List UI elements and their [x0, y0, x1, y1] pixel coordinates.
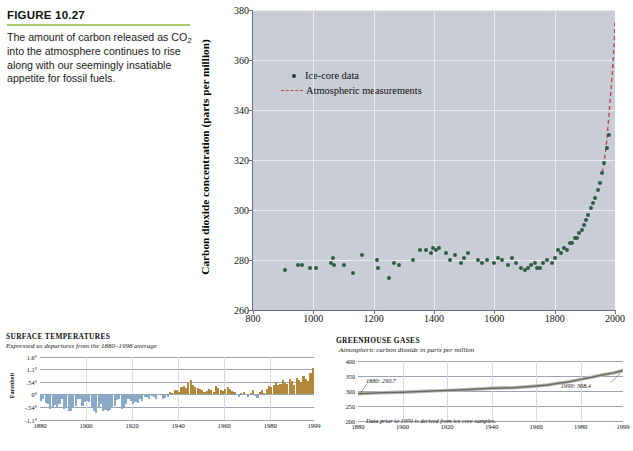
ice-core-data-point	[605, 146, 609, 150]
main-x-tickmark	[494, 310, 495, 314]
main-y-tickmark	[249, 110, 253, 111]
temp-y-tick: 1.1°	[27, 365, 37, 372]
ice-core-data-point	[448, 258, 452, 262]
legend-dot-icon	[292, 74, 296, 78]
ghg-x-tick: 1999	[616, 423, 629, 430]
ice-core-data-point	[575, 236, 579, 240]
temperature-bar	[256, 394, 258, 398]
ice-core-data-point	[418, 248, 422, 252]
ice-core-data-point	[582, 223, 586, 227]
main-x-tickmark	[615, 310, 616, 314]
ice-core-data-point	[591, 201, 595, 205]
ice-core-data-point	[392, 261, 396, 265]
ice-core-data-point	[506, 263, 510, 267]
ice-core-data-point	[553, 256, 557, 260]
temp-x-tick: 1980	[264, 422, 277, 429]
main-x-tick: 1200	[364, 313, 384, 324]
ice-core-data-point	[437, 246, 441, 250]
main-x-tickmark	[555, 310, 556, 314]
ice-core-data-point	[480, 261, 484, 265]
ghg-y-tick: 400	[346, 358, 355, 365]
ice-core-data-point	[300, 263, 304, 267]
temp-y-tick: 1.6°	[27, 354, 37, 361]
main-x-tick: 800	[246, 313, 261, 324]
ice-core-data-point	[593, 196, 597, 200]
temp-x-tick: 1940	[172, 422, 185, 429]
main-x-tickmark	[253, 310, 254, 314]
temp-y-tick: 0°	[31, 391, 37, 398]
main-chart-legend: Ice-core data Atmospheric measurements	[281, 68, 422, 98]
ice-core-data-point	[466, 251, 470, 255]
temperature-bar	[247, 394, 249, 397]
main-x-tick: 1000	[303, 313, 323, 324]
surface-temperatures-plot-area: 1.6°1.1°.54°0°-.54°-1.1°1880190019201940…	[40, 357, 314, 421]
main-co2-chart: Carbon dioxide concentration (parts per …	[200, 4, 628, 326]
ghg-co2-line	[358, 361, 623, 421]
greenhouse-gases-panel: GREENHOUSE GASES Atmospheric carbon diox…	[336, 336, 630, 448]
ghg-x-tick: 1960	[530, 423, 543, 430]
main-chart-plot-area: Ice-core data Atmospheric measurements 2…	[252, 10, 615, 311]
ice-core-data-point	[538, 266, 542, 270]
ice-core-data-point	[453, 253, 457, 257]
main-x-tick: 1800	[545, 313, 565, 324]
ice-core-data-point	[533, 261, 537, 265]
ice-core-data-point	[308, 266, 312, 270]
temperature-bar	[157, 394, 159, 395]
ghg-y-tick: 300	[346, 388, 355, 395]
farenheit-label: Farenheit	[8, 372, 15, 398]
main-y-tick: 340	[234, 105, 249, 116]
legend-label-atmospheric: Atmospheric measurements	[306, 85, 422, 96]
ice-core-data-point	[429, 251, 433, 255]
main-y-tickmark	[249, 60, 253, 61]
ice-core-data-point	[476, 258, 480, 262]
ice-core-data-point	[397, 263, 401, 267]
ice-core-data-point	[387, 276, 391, 280]
ice-core-data-point	[351, 271, 355, 275]
temp-x-tick: 1960	[218, 422, 231, 429]
ice-core-data-point	[424, 248, 428, 252]
main-y-tick: 360	[234, 55, 249, 66]
ice-core-data-point	[444, 251, 448, 255]
ice-core-data-point	[375, 258, 379, 262]
ice-core-data-point	[602, 161, 606, 165]
main-y-tickmark	[249, 210, 253, 211]
figure-rule	[7, 24, 190, 26]
surface-temperatures-panel: SURFACE TEMPERATURES Expressed as depart…	[6, 332, 316, 447]
main-y-tick: 280	[234, 255, 249, 266]
ice-core-data-point	[600, 171, 604, 175]
ice-core-data-point	[596, 188, 600, 192]
surface-temperatures-subtitle: Expressed as departures from the 1880–19…	[6, 342, 316, 350]
ghg-x-tick: 1880	[351, 423, 364, 430]
ice-core-data-point	[607, 133, 611, 137]
main-y-tick: 320	[234, 155, 249, 166]
ghg-x-tick: 1900	[396, 423, 409, 430]
temp-x-tick: 1920	[126, 422, 139, 429]
ghg-y-tick: 250	[346, 403, 355, 410]
surface-temperatures-y-axis-label: Farenheit	[6, 360, 17, 410]
ghg-x-tick: 1940	[485, 423, 498, 430]
ice-core-data-point	[514, 261, 518, 265]
caption-part-two: into the atmosphere continues to rise al…	[7, 45, 181, 84]
temperature-bar	[238, 394, 240, 396]
ghg-annotation-1880: 1880: 290.7	[366, 377, 396, 384]
main-y-tickmark	[249, 10, 253, 11]
main-y-tickmark	[249, 260, 253, 261]
ice-core-data-point	[550, 261, 554, 265]
ice-core-data-point	[331, 256, 335, 260]
temperature-bar	[312, 368, 314, 394]
figure-label: FIGURE 10.27	[7, 9, 197, 21]
temp-x-tick: 1999	[307, 422, 320, 429]
figure-caption-block: FIGURE 10.27 The amount of carbon releas…	[7, 9, 197, 86]
main-y-tick: 300	[234, 205, 249, 216]
caption-subscript: 2	[187, 36, 191, 45]
caption-part-one: The amount of carbon released as CO	[7, 31, 187, 43]
main-x-tickmark	[313, 310, 314, 314]
ice-core-data-point	[342, 263, 346, 267]
ice-core-data-point	[559, 251, 563, 255]
temperature-bar	[167, 394, 169, 396]
main-x-tick: 1600	[484, 313, 504, 324]
temp-x-tick: 1900	[79, 422, 92, 429]
legend-dashed-line-icon	[281, 90, 303, 91]
ice-core-data-point	[598, 181, 602, 185]
ice-core-data-point	[565, 248, 569, 252]
